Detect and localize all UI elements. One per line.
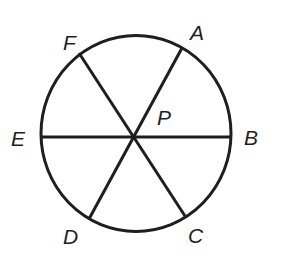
label-b: B (244, 126, 258, 149)
segment-cf (79, 53, 185, 216)
label-p: P (157, 106, 171, 129)
label-d: D (63, 225, 78, 248)
segment-ad (89, 48, 182, 219)
label-e: E (11, 127, 26, 150)
label-a: A (188, 21, 204, 44)
label-c: C (188, 224, 204, 247)
circle-diagram: A B C D E F P (0, 0, 288, 258)
label-f: F (63, 31, 77, 54)
